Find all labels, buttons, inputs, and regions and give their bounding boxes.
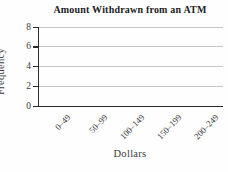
y-tick-label-8: 8 — [11, 23, 31, 33]
x-cat-label-4: 200–249 — [192, 113, 220, 141]
gridline-y-4 — [39, 66, 223, 67]
y-tick-mark-2 — [33, 86, 38, 87]
y-axis-title: Frequency — [0, 41, 6, 103]
y-tick-mark-6 — [33, 46, 38, 47]
x-cat-label-0: 0–49 — [54, 113, 73, 132]
y-tick-mark-8 — [33, 27, 38, 28]
y-tick-label-6: 6 — [11, 42, 31, 52]
x-cat-label-3: 150–199 — [155, 113, 183, 141]
plot-area: 024680–4950–99100–149150–199200–249 — [38, 27, 223, 107]
atm-frequency-chart: Amount Withdrawn from an ATM Frequency 0… — [0, 0, 228, 172]
x-axis-title: Dollars — [38, 148, 222, 159]
y-tick-label-0: 0 — [11, 102, 31, 112]
gridline-y-6 — [39, 46, 223, 47]
y-tick-mark-0 — [33, 106, 38, 107]
y-tick-label-2: 2 — [11, 82, 31, 92]
gridline-y-2 — [39, 86, 223, 87]
y-tick-label-4: 4 — [11, 62, 31, 72]
chart-title: Amount Withdrawn from an ATM — [38, 4, 222, 15]
y-tick-mark-4 — [33, 66, 38, 67]
gridline-y-8 — [39, 27, 223, 28]
x-cat-label-1: 50–99 — [88, 113, 110, 135]
x-cat-label-2: 100–149 — [119, 113, 147, 141]
